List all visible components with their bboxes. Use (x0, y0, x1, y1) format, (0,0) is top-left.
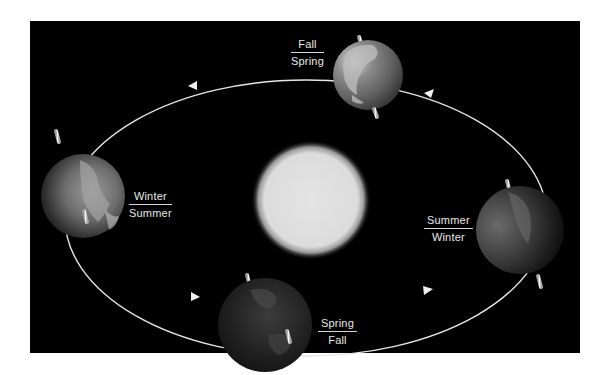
label-left: Winter Summer (129, 189, 172, 220)
label-right-southern: Winter (424, 229, 473, 244)
label-bottom-southern: Fall (318, 332, 357, 347)
label-bottom: Spring Fall (318, 316, 357, 347)
label-left-southern: Summer (129, 205, 172, 220)
label-top-northern: Fall (291, 37, 324, 53)
label-right-northern: Summer (424, 213, 473, 229)
label-top-southern: Spring (291, 53, 324, 68)
label-right: Summer Winter (424, 213, 473, 244)
label-top: Fall Spring (291, 37, 324, 68)
label-left-northern: Winter (129, 189, 172, 205)
seasons-diagram: Fall Spring Winter Summer Spring Fall Su… (0, 0, 607, 375)
sun-icon (251, 140, 371, 260)
label-bottom-northern: Spring (318, 316, 357, 332)
